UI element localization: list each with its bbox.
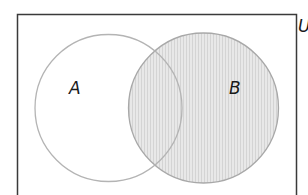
venn-diagram: A B U bbox=[0, 0, 308, 195]
set-a-label: A bbox=[68, 78, 81, 98]
set-b-circle bbox=[129, 33, 279, 183]
universe-label: U bbox=[298, 16, 308, 36]
set-b-label: B bbox=[229, 78, 241, 98]
